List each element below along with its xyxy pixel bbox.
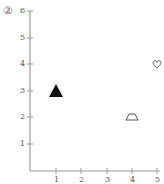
x-tick-label: 1	[54, 176, 59, 184]
heart-marker	[153, 61, 161, 68]
y-tick-label: 3	[20, 87, 25, 95]
y-tick-label: 5	[20, 34, 25, 42]
y-tick-label: 6	[20, 7, 25, 15]
trapezoid-marker	[126, 114, 138, 120]
x-tick-label: 4	[130, 176, 135, 184]
filled-triangle-marker	[49, 84, 63, 97]
x-tick-label: 3	[105, 176, 110, 184]
y-tick-label: 1	[20, 140, 25, 148]
y-tick-label: 4	[20, 60, 25, 68]
y-tick-label: 2	[20, 113, 25, 121]
coordinate-plot: ② 6 5 4 3 2 1 1 2	[0, 0, 164, 184]
x-tick-label: 2	[79, 176, 84, 184]
x-tick-label: 5	[155, 176, 160, 184]
